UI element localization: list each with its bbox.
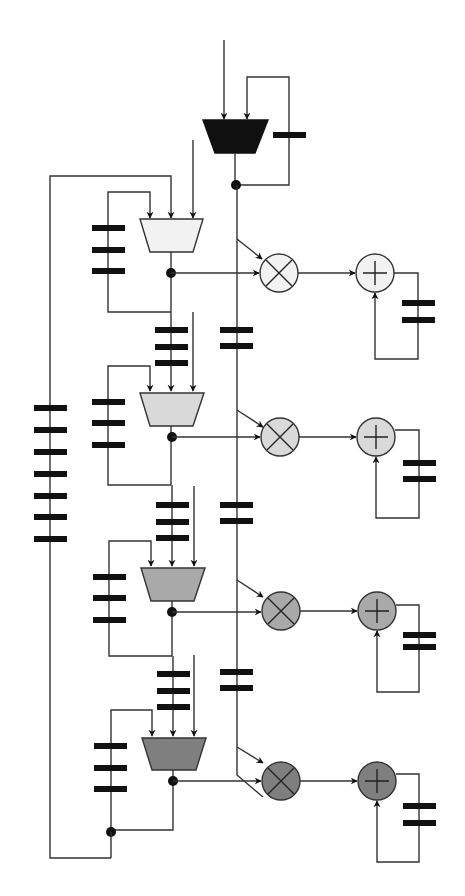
stage-3 xyxy=(93,485,436,692)
stage-1-feedback-register xyxy=(92,268,125,274)
stage-3-input-register xyxy=(156,502,189,508)
stage-4-feedback-register xyxy=(94,765,127,771)
stage-4-input-register xyxy=(157,688,190,694)
stage-4-input-register xyxy=(157,671,190,677)
top-mux-group xyxy=(203,40,306,190)
stage-2-input-register xyxy=(155,360,188,366)
outer-loop-register xyxy=(34,536,67,542)
stage-3-input-register xyxy=(156,535,189,541)
stage-1-acc-register xyxy=(402,317,435,323)
bus-register xyxy=(220,518,253,524)
stage-3-acc-register xyxy=(403,644,436,650)
stage-3-feedback-register xyxy=(93,617,126,623)
stage-2-input-register xyxy=(155,327,188,333)
stage-2-mux xyxy=(140,393,204,426)
stage-3-feedback-register xyxy=(93,574,126,580)
stage-1-feedback-register xyxy=(92,225,125,231)
outer-loop-register xyxy=(34,449,67,455)
bus-register xyxy=(220,669,253,675)
bus-tap-2 xyxy=(237,410,263,427)
stage-1-feedback-register xyxy=(92,247,125,253)
stage-3-acc-register xyxy=(403,632,436,638)
stage-3-input-register xyxy=(156,519,189,525)
outer-loop-register xyxy=(34,471,67,477)
bus-register xyxy=(220,343,253,349)
bus-tap-4 xyxy=(237,747,263,763)
stage-4-acc-register xyxy=(403,803,436,809)
outer-loop-register xyxy=(34,427,67,433)
top-feedback-register xyxy=(273,132,306,138)
stage-2-acc-register xyxy=(403,476,436,482)
outer-loop-register xyxy=(34,493,67,499)
stage-3-mux xyxy=(141,568,205,601)
top-junction xyxy=(231,180,241,190)
stage-2-input-register xyxy=(155,344,188,350)
bus-tap-1 xyxy=(237,239,262,259)
stage-2 xyxy=(92,312,436,518)
stage-4-acc-register xyxy=(403,820,436,826)
outer-loop-register xyxy=(34,514,67,520)
stage-3-feedback-register xyxy=(93,595,126,601)
stage-2-feedback-register xyxy=(92,442,125,448)
stage-1-mux xyxy=(140,219,203,252)
bus-register xyxy=(220,685,253,691)
bus-register xyxy=(220,327,253,333)
stage-4-feedback-register xyxy=(94,743,127,749)
stage-1 xyxy=(92,140,435,359)
outer-loop-register xyxy=(34,405,67,411)
stage-4 xyxy=(94,655,436,862)
stage-2-acc-register xyxy=(403,460,436,466)
stage-2-feedback-register xyxy=(92,399,125,405)
stage-4-mux xyxy=(142,738,206,770)
stage-2-feedback-register xyxy=(92,420,125,426)
stage-4-input-register xyxy=(157,704,190,710)
main-bus xyxy=(237,185,263,797)
bus-register xyxy=(220,502,253,508)
top-mux xyxy=(203,120,268,153)
datapath-diagram xyxy=(0,0,465,896)
stage-4-feedback-register xyxy=(94,786,127,792)
stage-1-acc-register xyxy=(402,300,435,306)
stage-4-mux-out xyxy=(111,770,173,830)
bus-tap-3 xyxy=(237,580,263,597)
